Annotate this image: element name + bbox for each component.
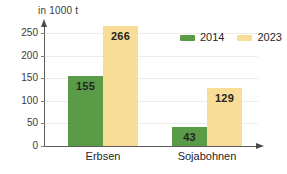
legend: 2014 2023 [180,32,282,43]
gridline [45,56,258,57]
y-axis-tick [41,56,45,57]
bar-sojabohnen-2014: 43 [172,127,207,146]
y-axis-tick-label: 150 [10,73,38,83]
legend-label-2014: 2014 [200,32,224,43]
bar-value-label: 43 [172,131,207,143]
x-axis-arrow-icon [256,143,264,149]
bar-erbsen-2014: 155 [68,76,103,146]
y-axis-line [44,26,45,146]
legend-label-2023: 2023 [257,32,281,43]
x-axis-line [44,146,257,147]
y-axis-tick [41,101,45,102]
legend-item-2014: 2014 [180,32,224,43]
legend-swatch-2014 [180,35,195,41]
legend-item-2023: 2023 [237,32,281,43]
y-axis-tick-label: 0 [10,141,38,151]
y-axis-tick-label: 200 [10,51,38,61]
bar-sojabohnen-2023: 129 [207,88,242,146]
bar-value-label: 155 [68,80,103,92]
y-axis-tick [41,146,45,147]
x-axis-category-label: Erbsen [43,150,163,162]
y-axis-tick-label: 50 [10,118,38,128]
legend-swatch-2023 [237,35,252,41]
bar-erbsen-2023: 266 [103,26,138,146]
y-axis-tick-label: 250 [10,28,38,38]
bar-chart: in 1000 t 2014 2023 05010015020025015526… [0,0,287,174]
x-axis-category-label: Sojabohnen [147,150,267,162]
y-axis-tick [41,123,45,124]
bar-value-label: 129 [207,92,242,104]
y-axis-arrow-icon [41,19,47,27]
y-axis-unit-label: in 1000 t [38,5,78,16]
y-axis-tick [41,33,45,34]
y-axis-tick-label: 100 [10,96,38,106]
y-axis-tick [41,78,45,79]
bar-value-label: 266 [103,30,138,42]
